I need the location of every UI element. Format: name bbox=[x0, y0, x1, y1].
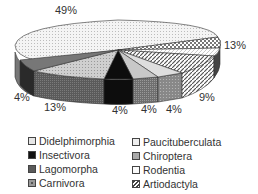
swatch-icon bbox=[28, 151, 36, 159]
label-4-c: 4% bbox=[112, 104, 128, 116]
label-4-left: 4% bbox=[14, 91, 30, 103]
legend-item-didelphimorphia: Didelphimorphia bbox=[28, 135, 115, 147]
swatch-icon bbox=[28, 179, 36, 187]
legend-item-rodentia: Rodentia bbox=[132, 164, 185, 176]
legend-item-chiroptera: Chiroptera bbox=[132, 150, 192, 162]
swatch-icon bbox=[132, 180, 140, 188]
swatch-icon bbox=[132, 138, 140, 146]
legend-item-carnivora: Carnivora bbox=[28, 177, 85, 189]
label-13-left: 13% bbox=[44, 101, 66, 113]
label-4-a: 4% bbox=[166, 103, 182, 115]
pie-chart bbox=[0, 0, 258, 130]
swatch-icon bbox=[132, 166, 140, 174]
label-13-right: 13% bbox=[224, 39, 246, 51]
legend-item-paucituberculata: Paucituberculata bbox=[132, 136, 221, 148]
swatch-icon bbox=[132, 152, 140, 160]
label-49: 49% bbox=[55, 4, 77, 16]
swatch-icon bbox=[28, 137, 36, 145]
legend-item-artiodactyla: Artiodactyla bbox=[132, 178, 198, 190]
legend-item-lagomorpha: Lagomorpha bbox=[28, 163, 98, 175]
legend-item-insectivora: Insectivora bbox=[28, 149, 90, 161]
label-9: 9% bbox=[199, 91, 215, 103]
pie-top bbox=[15, 20, 221, 79]
swatch-icon bbox=[28, 165, 36, 173]
label-4-b: 4% bbox=[141, 103, 157, 115]
